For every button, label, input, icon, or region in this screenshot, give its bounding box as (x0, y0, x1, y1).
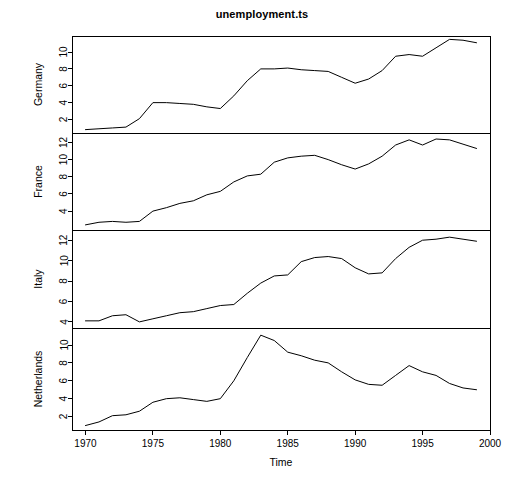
unemployment-multi-panel-chart: 246810Germany4681012France4681012Italy24… (0, 0, 524, 488)
italy-panel-ytick-label: 10 (59, 255, 70, 267)
france-panel-ytick-label: 8 (59, 174, 70, 180)
france-panel-series-line (85, 139, 476, 225)
xtick-label: 1980 (209, 438, 232, 449)
xtick-label: 1995 (411, 438, 434, 449)
x-axis-title: Time (270, 456, 293, 468)
germany-panel-axis-title: Germany (32, 62, 44, 106)
france-panel-ytick-label: 6 (59, 191, 70, 197)
germany-panel-ytick-label: 10 (59, 46, 70, 58)
netherlands-panel-box (73, 329, 491, 431)
netherlands-panel-ytick-label: 10 (59, 339, 70, 351)
netherlands-panel-ytick-label: 8 (59, 360, 70, 366)
netherlands-panel-axis-title: Netherlands (32, 351, 44, 408)
netherlands-panel-ytick-label: 6 (59, 378, 70, 384)
france-panel-axis-title: France (32, 165, 44, 198)
italy-panel-ytick-label: 6 (59, 298, 70, 304)
germany-panel-series-line (85, 39, 476, 129)
france-panel-box (73, 134, 491, 231)
germany-panel-box (73, 37, 491, 134)
italy-panel-series-line (85, 237, 476, 322)
france-panel-ytick-label: 4 (59, 208, 70, 214)
france-panel-ytick-label: 10 (59, 154, 70, 166)
germany-panel-ytick-label: 6 (59, 83, 70, 89)
italy-panel-ytick-label: 12 (59, 234, 70, 246)
germany-panel-ytick-label: 4 (59, 99, 70, 105)
france-panel-ytick-label: 12 (59, 136, 70, 148)
italy-panel-ytick-label: 8 (59, 278, 70, 284)
xtick-label: 2000 (479, 438, 502, 449)
plot-root: unemployment.ts 246810Germany4681012Fran… (0, 0, 524, 488)
netherlands-panel-series-line (85, 335, 476, 425)
xtick-label: 1990 (344, 438, 367, 449)
netherlands-panel-ytick-label: 2 (59, 413, 70, 419)
germany-panel-ytick-label: 8 (59, 66, 70, 72)
xtick-label: 1985 (277, 438, 300, 449)
xtick-label: 1975 (142, 438, 165, 449)
xtick-label: 1970 (74, 438, 97, 449)
italy-panel-box (73, 231, 491, 329)
italy-panel-ytick-label: 4 (59, 319, 70, 325)
netherlands-panel-ytick-label: 4 (59, 395, 70, 401)
italy-panel-axis-title: Italy (32, 269, 44, 289)
germany-panel-ytick-label: 2 (59, 116, 70, 122)
